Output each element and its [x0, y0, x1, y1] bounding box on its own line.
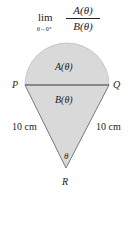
- left-side-length: 10 cm: [12, 121, 37, 132]
- region-a-label: A(θ): [55, 61, 73, 72]
- point-q-label: Q: [113, 79, 120, 90]
- region-b-label: B(θ): [55, 94, 73, 105]
- point-r-label: R: [62, 176, 68, 187]
- point-p-label: P: [12, 79, 18, 90]
- right-side-length: 10 cm: [96, 121, 121, 132]
- angle-theta-label: θ: [64, 151, 68, 161]
